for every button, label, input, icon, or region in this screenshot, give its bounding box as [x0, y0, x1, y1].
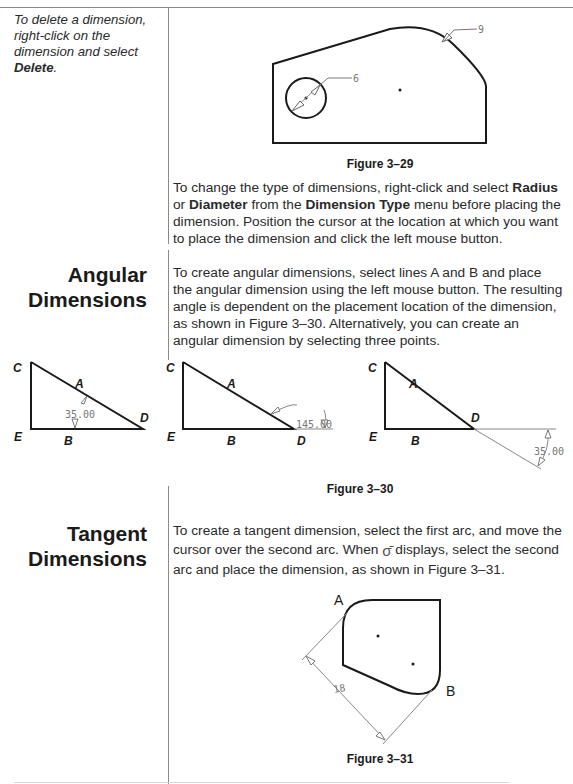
bold-diameter: Diameter	[189, 197, 248, 212]
para-text: To change the type of dimensions, right-…	[173, 180, 512, 195]
para-dimension-type: To change the type of dimensions, right-…	[173, 179, 563, 247]
heading-line: Tangent	[28, 521, 147, 546]
label-b: B	[411, 434, 420, 448]
label-a: A	[408, 377, 418, 391]
dim-angle-2: 145.00	[296, 419, 332, 430]
label-e: E	[14, 430, 23, 444]
label-d: D	[140, 411, 149, 425]
dim-tangent: 18	[332, 682, 346, 695]
label-b: B	[446, 683, 455, 699]
dim-diameter-label: 6	[353, 73, 359, 84]
figure-3-31-drawing: 18 A B	[0, 590, 573, 784]
para-tangent: To create a tangent dimension, select th…	[173, 521, 563, 579]
label-e: E	[167, 430, 176, 444]
label-d: D	[471, 411, 480, 425]
heading-line: Dimensions	[28, 287, 147, 312]
para-text: or	[173, 197, 189, 212]
label-c: C	[13, 361, 22, 375]
dim-angle-1: 35.00	[65, 409, 95, 420]
figure-3-31-caption: Figure 3–31	[320, 752, 440, 766]
bold-radius: Radius	[512, 180, 558, 195]
label-e: E	[369, 430, 378, 444]
figure-3-30-drawing: C A D E B 35.00 C A D E B 145.00 C A D E…	[0, 355, 573, 475]
dim-angle-3: 35.00	[534, 446, 564, 457]
figure-3-30-caption: Figure 3–30	[300, 482, 420, 496]
column-divider-angular	[168, 250, 169, 360]
label-a: A	[74, 377, 84, 391]
para-angular: To create angular dimensions, select lin…	[173, 264, 563, 349]
label-a: A	[226, 377, 236, 391]
label-a: A	[334, 592, 344, 608]
label-c: C	[166, 361, 175, 375]
heading-line: Dimensions	[28, 546, 147, 571]
dim-radius-label: 9	[478, 24, 484, 35]
label-c: C	[368, 361, 377, 375]
figure-3-29-drawing: 6 9	[0, 0, 573, 160]
figure-3-29-caption: Figure 3–29	[320, 157, 440, 171]
label-d: D	[297, 434, 306, 448]
label-b: B	[64, 434, 73, 448]
bold-dimension-type: Dimension Type	[305, 197, 410, 212]
heading-tangent-dimensions: TangentDimensions	[28, 521, 147, 571]
heading-angular-dimensions: AngularDimensions	[28, 262, 147, 312]
label-b: B	[227, 434, 236, 448]
para-text: from the	[248, 197, 306, 212]
heading-line: Angular	[28, 262, 147, 287]
